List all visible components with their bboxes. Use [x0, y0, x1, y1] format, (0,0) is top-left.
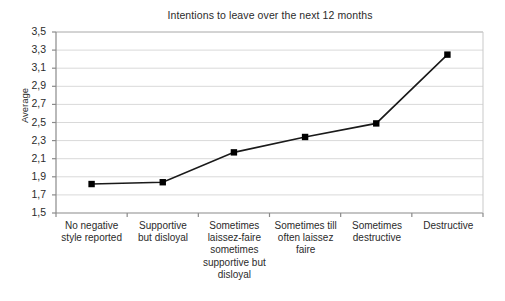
x-axis-category-label-line: No negative — [57, 220, 126, 232]
x-axis-category-label: No negativestyle reported — [56, 220, 127, 244]
data-point-marker — [160, 179, 166, 185]
x-axis-category-label-line: Supportive — [128, 220, 197, 232]
x-axis-category-labels: No negativestyle reportedSupportivebut d… — [56, 220, 484, 300]
x-axis-category-label-line: Sometimes — [342, 220, 411, 232]
data-point-marker — [373, 120, 379, 126]
data-point-marker — [88, 181, 94, 187]
x-axis-category-label: Sometimesdestructive — [341, 220, 412, 244]
x-axis-category-label-line: Sometimes — [200, 220, 269, 232]
x-axis-category-label-line: supportive but — [200, 257, 269, 269]
chart-container: Intentions to leave over the next 12 mon… — [0, 0, 505, 301]
x-axis-category-label-line: Sometimes till — [271, 220, 340, 232]
data-series-markers — [88, 51, 450, 187]
x-axis-category-label: Sometimes tilloften laissezfaire — [270, 220, 341, 257]
x-axis-category-label-line: faire — [271, 244, 340, 256]
data-point-marker — [444, 51, 450, 57]
x-axis-category-label-line: destructive — [342, 232, 411, 244]
data-point-marker — [302, 134, 308, 140]
x-axis-category-label: Supportivebut disloyal — [127, 220, 198, 244]
data-point-marker — [231, 149, 237, 155]
x-axis-category-label: Sometimeslaissez-fairesometimessupportiv… — [199, 220, 270, 281]
x-axis-category-label-line: style reported — [57, 232, 126, 244]
x-axis-category-label-line: often laissez — [271, 232, 340, 244]
x-axis-category-label-line: Destructive — [414, 220, 483, 232]
x-axis-category-label-line: but disloyal — [128, 232, 197, 244]
x-axis-category-label-line: disloyal — [200, 269, 269, 281]
x-axis-ticks — [56, 213, 483, 217]
x-axis-category-label-line: sometimes — [200, 244, 269, 256]
x-axis-category-label-line: laissez-faire — [200, 232, 269, 244]
gridlines — [56, 32, 483, 195]
x-axis-category-label: Destructive — [413, 220, 484, 232]
data-series-line — [92, 55, 448, 184]
